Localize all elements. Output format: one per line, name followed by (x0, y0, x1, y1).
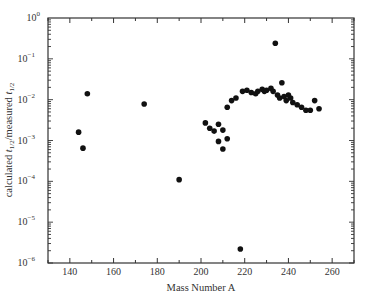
y-tick-label: 10−3 (18, 133, 36, 146)
x-tick-label: 240 (281, 266, 296, 277)
data-point (76, 129, 82, 135)
axis-ticks (48, 18, 354, 263)
y-tick-label: 10−5 (18, 214, 36, 227)
x-axis-label: Mass Number A (167, 282, 236, 293)
scatter-chart: 140160180200220240260 10010−110−210−310−… (0, 0, 365, 298)
y-tick-label: 10−6 (18, 255, 36, 268)
x-tick-label: 200 (194, 266, 209, 277)
data-points (76, 41, 322, 252)
y-tick-labels: 10010−110−210−310−410−510−6 (18, 10, 41, 268)
data-point (141, 101, 147, 107)
data-point (279, 80, 285, 86)
data-point (80, 145, 86, 151)
y-tick-label: 10−4 (18, 173, 36, 186)
data-point (307, 107, 313, 113)
x-tick-label: 260 (325, 266, 340, 277)
data-point (316, 106, 322, 112)
y-axis-label: calculated t1/2/measured t1/2 (3, 82, 16, 197)
x-tick-label: 180 (150, 266, 165, 277)
data-point (238, 246, 244, 252)
data-point (220, 146, 226, 152)
data-point (211, 128, 217, 134)
x-tick-label: 140 (62, 266, 77, 277)
data-point (216, 121, 222, 127)
data-point (176, 177, 182, 183)
data-point (85, 91, 91, 97)
data-point (216, 139, 222, 145)
y-tick-label: 10−1 (18, 51, 36, 64)
y-tick-label: 100 (27, 10, 41, 23)
data-point (270, 89, 276, 95)
x-tick-label: 220 (237, 266, 252, 277)
data-point (224, 136, 230, 142)
data-point (233, 95, 239, 101)
x-tick-label: 160 (106, 266, 121, 277)
data-point (203, 120, 209, 126)
plot-frame (48, 18, 354, 263)
x-tick-labels: 140160180200220240260 (62, 266, 339, 277)
data-point (312, 98, 318, 104)
data-point (220, 127, 226, 133)
y-tick-label: 10−2 (18, 92, 36, 105)
data-point (224, 105, 230, 111)
data-point (273, 41, 279, 47)
